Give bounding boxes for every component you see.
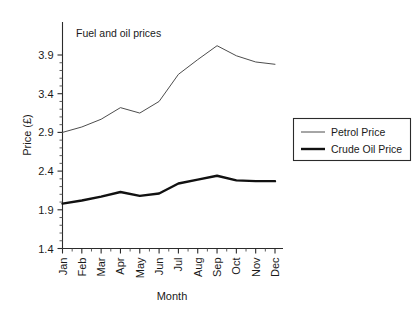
x-axis-tick-label: Jun: [153, 258, 165, 276]
y-axis-tick-label: 1.4: [38, 243, 53, 255]
y-axis-tick-label: 3.4: [38, 88, 53, 100]
legend-label-petrol-price: Petrol Price: [331, 126, 385, 138]
y-axis-tick-labels: 1.41.92.42.93.43.9: [38, 49, 53, 255]
x-axis-tick-labels: JanFebMarAprMayJunJulAugSepOctNovDec: [57, 257, 282, 278]
y-axis-tick-label: 1.9: [38, 204, 53, 216]
fuel-and-oil-prices-line-chart: 1.41.92.42.93.43.9 JanFebMarAprMayJunJul…: [0, 0, 416, 312]
series-line-petrol-price: [63, 46, 276, 133]
x-axis-title: Month: [157, 290, 188, 302]
x-axis-tick-label: Oct: [230, 258, 242, 275]
x-axis-tick-label: Apr: [114, 257, 126, 274]
plot-series-group: [63, 46, 276, 204]
x-axis-tick-label: Mar: [95, 257, 107, 276]
axes: [63, 22, 284, 249]
x-axis-tick-label: May: [134, 257, 146, 278]
x-axis-tick-label: Jan: [57, 258, 69, 276]
chart-title: Fuel and oil prices: [76, 27, 161, 39]
x-axis-ticks: [63, 249, 276, 254]
legend-label-crude-oil-price: Crude Oil Price: [331, 143, 402, 155]
y-axis-tick-label: 2.9: [38, 126, 53, 138]
x-axis-tick-label: Nov: [250, 257, 262, 277]
x-axis-tick-label: Dec: [269, 257, 281, 277]
y-axis-ticks: [58, 55, 63, 249]
y-axis-title: Price (£): [21, 114, 33, 156]
legend: Petrol Price Crude Oil Price: [294, 119, 411, 161]
x-axis-tick-label: Feb: [76, 258, 88, 277]
series-line-crude-oil-price: [63, 176, 276, 204]
y-axis-tick-label: 3.9: [38, 49, 53, 61]
chart-container: 1.41.92.42.93.43.9 JanFebMarAprMayJunJul…: [0, 0, 416, 312]
x-axis-tick-label: Sep: [211, 258, 223, 278]
x-axis-tick-label: Aug: [192, 258, 204, 278]
y-axis-tick-label: 2.4: [38, 165, 53, 177]
x-axis-tick-label: Jul: [172, 258, 184, 272]
